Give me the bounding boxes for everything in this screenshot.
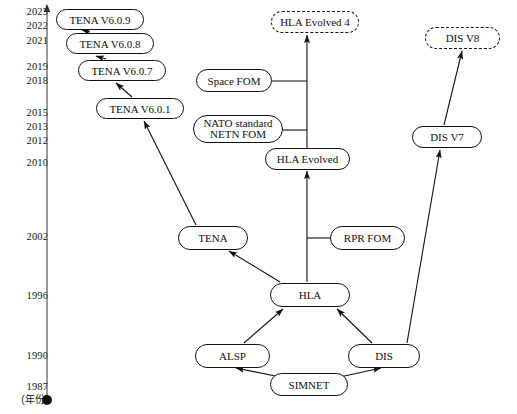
edge-disv7-to-disv8 xyxy=(444,51,462,125)
edge-tena601-to-tena607 xyxy=(116,83,132,97)
node-nato-netn-fom[interactable]: NATO standard NETN FOM xyxy=(193,115,283,143)
diagram-canvas: 2023 2022 2021 2019 2018 2015 2013 2012 … xyxy=(0,0,517,414)
node-dis[interactable]: DIS xyxy=(348,344,420,368)
node-alsp[interactable]: ALSP xyxy=(195,344,270,368)
node-dis-v8[interactable]: DIS V8 xyxy=(425,27,500,49)
node-tena-v601[interactable]: TENA V6.0.1 xyxy=(96,98,184,119)
node-hla-evolved[interactable]: HLA Evolved xyxy=(265,148,350,170)
node-simnet[interactable]: SIMNET xyxy=(270,373,348,396)
edge-dis-to-hla xyxy=(337,309,372,343)
node-nato-netn-fom-line2: NETN FOM xyxy=(210,129,266,141)
node-hla-evolved-4[interactable]: HLA Evolved 4 xyxy=(271,11,359,33)
edge-simnet-to-dis xyxy=(340,368,381,377)
node-tena-v607[interactable]: TENA V6.0.7 xyxy=(78,60,166,81)
edge-tena607-to-tena608 xyxy=(96,56,106,59)
edge-hla-to-tena xyxy=(229,251,280,282)
node-dis-v7[interactable]: DIS V7 xyxy=(412,126,482,148)
year-axis-line xyxy=(42,4,52,405)
edge-tena608-to-tena609 xyxy=(82,30,90,32)
node-tena-v608[interactable]: TENA V6.0.8 xyxy=(66,33,154,54)
node-rpr-fom[interactable]: RPR FOM xyxy=(330,226,405,250)
edge-dis-to-disv7 xyxy=(407,150,440,343)
node-space-fom[interactable]: Space FOM xyxy=(196,69,272,92)
edge-alsp-to-hla xyxy=(244,309,283,343)
node-tena-v609[interactable]: TENA V6.0.9 xyxy=(56,9,144,30)
edge-tena-to-tena601 xyxy=(144,121,196,225)
node-hla[interactable]: HLA xyxy=(270,283,350,307)
node-tena[interactable]: TENA xyxy=(178,226,248,250)
